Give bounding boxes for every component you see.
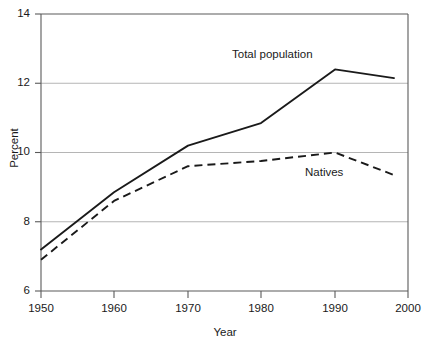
xtick-label-1970: 1970 — [165, 303, 211, 315]
xtick-label-1960: 1960 — [91, 303, 137, 315]
x-axis-title: Year — [180, 326, 270, 338]
xtick-label-1950: 1950 — [18, 303, 64, 315]
x-axis-ticks — [41, 291, 408, 298]
xtick-label-2000: 2000 — [385, 303, 429, 315]
xtick-label-1990: 1990 — [312, 303, 358, 315]
y-axis-title: Percent — [8, 113, 20, 183]
xtick-label-1980: 1980 — [238, 303, 284, 315]
line-chart: 14 12 10 8 6 1950 1960 1970 1980 1990 20… — [0, 0, 429, 348]
ytick-label-14: 14 — [4, 8, 30, 20]
ytick-label-12: 12 — [4, 77, 30, 89]
series-total-population — [41, 69, 394, 249]
ytick-label-6: 6 — [4, 285, 30, 297]
series-label-total-population: Total population — [232, 48, 313, 60]
plot-area — [0, 0, 429, 348]
series-label-natives: Natives — [305, 166, 343, 178]
gridlines — [41, 83, 408, 222]
ytick-label-8: 8 — [4, 216, 30, 228]
